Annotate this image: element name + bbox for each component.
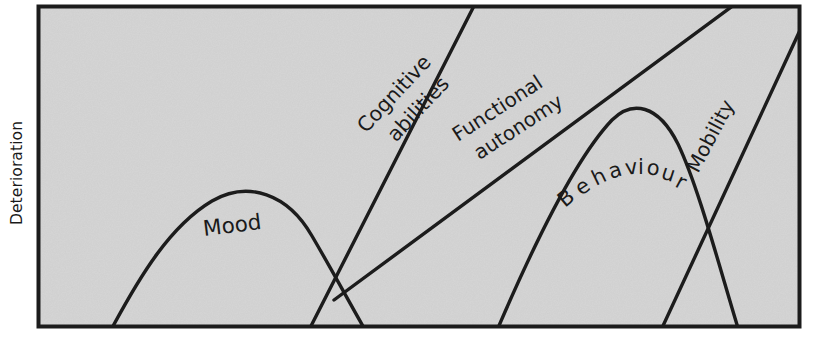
plot-area: Mood Cognitive abilities Functional auto… [36,4,802,329]
y-axis-label: Deterioration [0,0,34,345]
label-behaviour-ch-5: i [638,155,644,179]
y-axis-label-text: Deterioration [8,120,26,224]
chart-svg: Mood Cognitive abilities Functional auto… [36,4,802,329]
label-behaviour-ch-7: u [658,160,678,187]
label-behaviour-ch-6: o [645,155,661,181]
figure-container: Deterioration [0,0,814,345]
